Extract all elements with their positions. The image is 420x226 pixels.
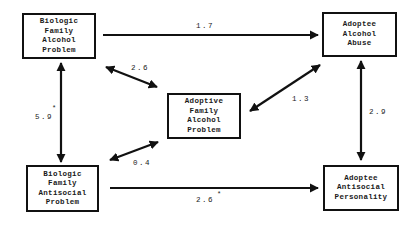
node-label-line: Biologic — [43, 170, 81, 180]
path-diagram: Biologic Family Alcohol Problem Adoptee … — [0, 0, 420, 226]
node-label-line: Alcohol — [187, 116, 221, 126]
edge-adoptive-alcohol-adoptee-alcohol — [250, 65, 320, 111]
node-biologic-family-alcohol-problem: Biologic Family Alcohol Problem — [22, 13, 96, 59]
edge-label-2-6-star: 2.6 — [196, 196, 214, 204]
node-label-line: Alcohol — [343, 30, 377, 40]
edge-label-2-6: 2.6 — [131, 64, 149, 72]
edge-label-0-4: 0.4 — [133, 159, 151, 167]
edge-label-1-7: 1.7 — [196, 22, 214, 30]
node-label-line: Antisocial — [337, 183, 385, 193]
node-adoptee-antisocial-personality: Adoptee Antisocial Personality — [323, 165, 399, 211]
node-label-line: Family — [45, 27, 74, 37]
significance-marker-5-9: * — [52, 104, 56, 112]
node-label-line: Problem — [42, 46, 76, 56]
edge-label-1-3: 1.3 — [292, 95, 310, 103]
edge-bio-antisocial-adoptive-alcohol — [110, 142, 158, 160]
node-label-line: Problem — [187, 126, 221, 136]
node-label-line: Abuse — [347, 39, 371, 49]
node-label-line: Antisocial — [38, 189, 86, 199]
edge-label-5-9: 5.9 — [35, 113, 53, 121]
node-biologic-family-antisocial-problem: Biologic Family Antisocial Problem — [26, 165, 99, 212]
node-label-line: Personality — [335, 193, 388, 203]
node-label-line: Alcohol — [42, 36, 76, 46]
node-label-line: Adoptee — [343, 20, 377, 30]
node-adoptee-alcohol-abuse: Adoptee Alcohol Abuse — [322, 12, 397, 57]
node-label-line: Family — [190, 107, 219, 117]
node-label-line: Adoptive — [185, 97, 223, 107]
node-label-line: Biologic — [40, 17, 78, 27]
node-label-line: Family — [48, 179, 77, 189]
node-label-line: Adoptee — [344, 174, 378, 184]
significance-marker-2-6: * — [217, 190, 221, 198]
node-label-line: Problem — [46, 198, 80, 208]
edge-label-2-9: 2.9 — [369, 108, 387, 116]
node-adoptive-family-alcohol-problem: Adoptive Family Alcohol Problem — [167, 93, 241, 139]
